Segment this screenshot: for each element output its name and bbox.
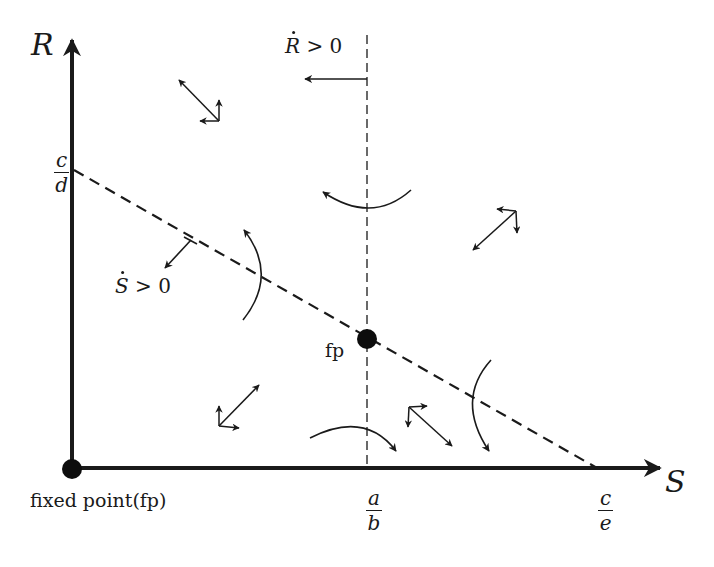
vector-field-lower-middle (408, 406, 452, 446)
fixed-point-origin (62, 459, 82, 479)
vector-field-upper-left (179, 80, 219, 121)
fraction-numerator: c (54, 150, 69, 173)
r-intercept-c-over-d: c d (54, 150, 69, 195)
r-dot-condition-label: R > 0 (285, 36, 342, 56)
s-intercept-c-over-e: c e (598, 488, 613, 533)
fraction-denominator: b (368, 511, 381, 533)
fraction-denominator: e (600, 511, 612, 533)
fraction-numerator: c (598, 488, 613, 511)
s-dot-relation: > 0 (135, 274, 171, 298)
vector-field-upper-right (473, 209, 517, 250)
r-dot-symbol: R (285, 36, 300, 56)
arc-bottom (310, 427, 396, 451)
vector-field-lower-left (219, 385, 259, 428)
s-dot-condition-label: S > 0 (115, 276, 171, 296)
r-dot-relation: > 0 (306, 34, 342, 58)
s-dot-direction-arrow (165, 240, 191, 268)
s-axis-label: S (665, 467, 686, 497)
phase-plane-diagram (0, 0, 714, 567)
fixed-point-interior-label: fp (325, 341, 344, 360)
s-nullcline-diagonal (74, 170, 597, 468)
s-intercept-a-over-b: a b (366, 488, 382, 533)
fixed-point-interior (357, 329, 377, 349)
fraction-numerator: a (366, 488, 382, 511)
fraction-denominator: d (55, 173, 68, 195)
arc-left (243, 230, 261, 320)
r-axis-label: R (31, 30, 54, 60)
fixed-point-origin-label: fixed point(fp) (30, 491, 166, 510)
s-dot-symbol: S (115, 276, 129, 296)
